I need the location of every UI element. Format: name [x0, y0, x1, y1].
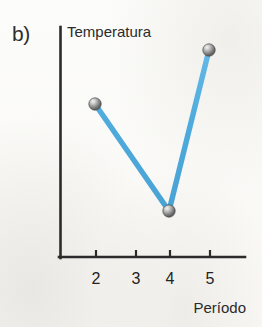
data-point-period-4 — [163, 205, 175, 217]
x-tick-label-3: 3 — [124, 270, 148, 288]
data-point-period-2 — [89, 98, 101, 110]
data-point-period-5 — [203, 44, 215, 56]
x-tick-label-2: 2 — [84, 270, 108, 288]
x-tick-label-4: 4 — [158, 270, 182, 288]
chart-figure: b) Temperatura — [0, 0, 262, 327]
x-tick-label-5: 5 — [198, 270, 222, 288]
data-line-temperatura — [95, 50, 209, 211]
data-markers — [89, 44, 215, 217]
x-axis-title: Período — [0, 299, 246, 316]
